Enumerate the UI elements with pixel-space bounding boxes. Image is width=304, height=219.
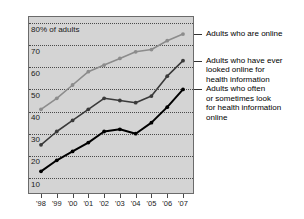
data-point bbox=[150, 48, 154, 52]
legend-label-line: Adults who are online bbox=[206, 29, 283, 39]
legend-connector-0 bbox=[194, 34, 202, 35]
series-lines bbox=[29, 17, 193, 193]
x-tick-'98 bbox=[41, 194, 42, 198]
y-tick-label-20: 20 bbox=[31, 157, 40, 166]
x-tick-'99 bbox=[57, 194, 58, 198]
legend-entry-1: Adults who have everlooked online forhea… bbox=[206, 56, 283, 85]
x-tick-label-'99: '99 bbox=[52, 200, 62, 208]
x-tick-'02 bbox=[104, 194, 105, 198]
data-point bbox=[181, 59, 185, 63]
x-tick-label-'06: '06 bbox=[162, 200, 172, 208]
data-point bbox=[102, 63, 106, 67]
x-tick-'04 bbox=[136, 194, 137, 198]
chart-figure: 80% of adults70605040302010 '98'99'00'01… bbox=[0, 0, 304, 219]
legend-entry-0: Adults who are online bbox=[206, 29, 283, 39]
data-point bbox=[150, 94, 154, 98]
legend-label-line: looked online for bbox=[206, 65, 283, 75]
x-tick-'05 bbox=[151, 194, 152, 198]
legend-connector-1 bbox=[194, 61, 202, 62]
series-line-0 bbox=[41, 34, 183, 109]
x-tick-label-'98: '98 bbox=[36, 200, 46, 208]
legend-label-line: Adults who often bbox=[206, 84, 281, 94]
y-tick-label-10: 10 bbox=[31, 180, 40, 189]
x-tick-'01 bbox=[88, 194, 89, 198]
x-tick-label-'02: '02 bbox=[99, 200, 109, 208]
series-line-2 bbox=[41, 89, 183, 171]
legend-label-line: or sometimes look bbox=[206, 94, 281, 104]
data-point bbox=[55, 96, 59, 100]
data-point bbox=[86, 107, 90, 111]
x-tick-label-'05: '05 bbox=[147, 200, 157, 208]
data-point bbox=[71, 83, 75, 87]
data-point bbox=[86, 70, 90, 74]
y-tick-label-70: 70 bbox=[31, 47, 40, 56]
data-point bbox=[55, 130, 59, 134]
x-tick-label-'03: '03 bbox=[115, 200, 125, 208]
legend-label-line: for health information bbox=[206, 103, 281, 113]
y-tick-label-40: 40 bbox=[31, 113, 40, 122]
x-tick-label-'01: '01 bbox=[83, 200, 93, 208]
series-line-1 bbox=[41, 61, 183, 145]
data-point bbox=[55, 158, 59, 162]
data-point bbox=[39, 169, 43, 173]
data-point bbox=[134, 132, 138, 136]
legend-label-line: Adults who have ever bbox=[206, 56, 283, 66]
x-tick-'06 bbox=[167, 194, 168, 198]
legend-entry-2: Adults who oftenor sometimes lookfor hea… bbox=[206, 84, 281, 122]
x-tick-label-'07: '07 bbox=[178, 200, 188, 208]
data-point bbox=[165, 39, 169, 43]
legend-connector-2 bbox=[194, 89, 202, 90]
data-point bbox=[71, 150, 75, 154]
data-point bbox=[102, 96, 106, 100]
data-point bbox=[150, 121, 154, 125]
y-tick-label-30: 30 bbox=[31, 135, 40, 144]
y-tick-label-60: 60 bbox=[31, 69, 40, 78]
x-tick-'03 bbox=[120, 194, 121, 198]
x-tick-label-'04: '04 bbox=[131, 200, 141, 208]
data-point bbox=[181, 88, 185, 92]
data-point bbox=[165, 74, 169, 78]
data-point bbox=[134, 50, 138, 54]
data-point bbox=[165, 105, 169, 109]
data-point bbox=[71, 119, 75, 123]
data-point bbox=[181, 32, 185, 36]
x-tick-label-'00: '00 bbox=[68, 200, 78, 208]
x-tick-'00 bbox=[73, 194, 74, 198]
data-point bbox=[118, 99, 122, 103]
data-point bbox=[118, 127, 122, 131]
data-point bbox=[39, 107, 43, 111]
data-point bbox=[86, 141, 90, 145]
data-point bbox=[118, 57, 122, 61]
legend-label-line: online bbox=[206, 113, 281, 123]
x-tick-'07 bbox=[183, 194, 184, 198]
y-tick-label-50: 50 bbox=[31, 91, 40, 100]
y-tick-label-80: 80% of adults bbox=[31, 25, 79, 34]
plot-area bbox=[28, 16, 194, 194]
data-point bbox=[102, 130, 106, 134]
legend-label-line: health information bbox=[206, 75, 283, 85]
data-point bbox=[134, 101, 138, 105]
